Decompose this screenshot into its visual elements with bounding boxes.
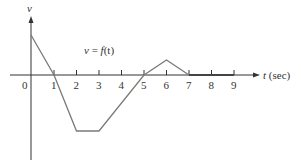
tick-label: 4 bbox=[119, 79, 125, 91]
tick-label: 7 bbox=[186, 79, 192, 91]
tick-label: 5 bbox=[141, 79, 147, 91]
tick-label: 0 bbox=[22, 79, 28, 91]
t-tick-labels: 0 1 2 3 4 5 6 7 8 9 bbox=[22, 79, 237, 91]
v-axis-arrow-icon bbox=[29, 16, 34, 23]
tick-label: 3 bbox=[96, 79, 102, 91]
tick-label: 9 bbox=[231, 79, 237, 91]
function-label: v = f(t) bbox=[84, 44, 114, 57]
t-axis-arrow-icon bbox=[253, 73, 260, 78]
tick-label: 6 bbox=[164, 79, 170, 91]
tick-label: 2 bbox=[74, 79, 80, 91]
v-axis-label: v bbox=[27, 2, 32, 14]
chart-svg: v t (sec) 0 1 2 3 4 5 6 7 8 9 v = f(t) bbox=[0, 0, 301, 161]
tick-label: 8 bbox=[209, 79, 215, 91]
t-axis-label: t (sec) bbox=[263, 69, 291, 82]
